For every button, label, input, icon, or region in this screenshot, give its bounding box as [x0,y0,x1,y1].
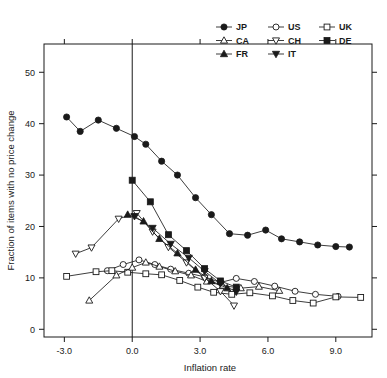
data-point-US-12 [312,291,318,297]
legend-marker-FR [220,50,227,57]
x-tick-label-3.0: 3.0 [194,346,207,356]
legend-item-FR[interactable]: FR [216,49,248,59]
legend-item-US[interactable]: US [268,22,301,32]
y-tick-label-40: 40 [25,119,35,129]
y-tick-label-10: 10 [25,273,35,283]
legend-label-UK: UK [339,22,352,32]
plot-frame [44,44,372,337]
y-tick-label-20: 20 [25,222,35,232]
inflation-price-change-chart: 01020304050-3.00.03.06.09.0Inflation rat… [0,0,387,378]
legend-label-US: US [288,22,301,32]
data-point-US-10 [272,283,278,289]
data-point-JP-8 [192,195,198,201]
data-point-JP-3 [113,125,119,131]
legend-label-CA: CA [236,36,249,46]
x-tick-label-9.0: 9.0 [330,346,343,356]
data-point-US-9 [251,278,257,284]
data-point-US-2 [136,257,142,263]
x-tick-label-0.0: 0.0 [126,346,139,356]
data-point-JP-17 [346,244,352,250]
legend-marker-US [273,24,279,30]
y-tick-label-30: 30 [25,170,35,180]
data-point-UK-5 [159,272,165,278]
legend-label-DE: DE [339,36,352,46]
data-point-JP-12 [263,227,269,233]
data-point-US-8 [233,275,239,281]
data-point-JP-11 [244,232,250,238]
data-point-UK-2 [109,268,115,274]
data-point-JP-16 [333,243,339,249]
legend-marker-UK [324,24,330,30]
legend-label-JP: JP [236,22,247,32]
legend-marker-IT [272,51,279,58]
legend-marker-DE [324,38,330,44]
data-point-JP-13 [278,236,284,242]
data-point-JP-5 [143,141,149,147]
legend-marker-JP [221,24,227,30]
data-point-CH-0 [72,251,79,257]
legend-label-FR: FR [236,49,248,59]
data-point-UK-9 [229,291,235,297]
legend-item-JP[interactable]: JP [216,22,247,32]
series-line-JP [67,117,350,247]
x-tick-label-6.0: 6.0 [262,346,275,356]
data-point-CA-3 [142,259,149,265]
legend-item-IT[interactable]: IT [268,49,297,59]
x-axis-label: Inflation rate [184,362,236,373]
legend-label-IT: IT [288,49,297,59]
x-tick-label--3.0: -3.0 [57,346,73,356]
data-point-JP-10 [226,231,232,237]
data-point-FR-0 [124,211,131,218]
data-point-DE-1 [147,199,153,205]
series-UK [64,268,364,306]
data-point-JP-14 [297,239,303,245]
data-point-UK-13 [310,300,316,306]
data-point-US-1 [120,262,126,268]
data-point-UK-0 [64,273,70,279]
data-point-US-11 [292,288,298,294]
data-point-CH-9 [231,303,238,309]
data-point-DE-3 [184,248,190,254]
data-point-JP-15 [315,242,321,248]
data-point-DE-0 [129,177,135,183]
legend-marker-CH [273,38,280,44]
legend: JPUSUKCACHDEFRIT [216,22,352,59]
data-point-JP-4 [131,133,137,139]
series-JP [64,114,353,250]
legend-marker-CA [221,37,228,43]
data-point-UK-12 [290,298,296,304]
data-point-UK-11 [270,293,276,299]
data-point-UK-6 [177,278,183,284]
data-point-JP-0 [64,114,70,120]
chart-container: 01020304050-3.00.03.06.09.0Inflation rat… [0,0,387,378]
data-point-JP-1 [77,128,83,134]
data-point-JP-2 [95,117,101,123]
data-point-DE-2 [165,232,171,238]
y-axis-label: Fraction of items with no price change [5,111,16,271]
data-point-JP-6 [159,158,165,164]
data-point-UK-8 [211,289,217,295]
data-point-UK-15 [358,295,364,301]
y-tick-label-50: 50 [25,68,35,78]
legend-item-UK[interactable]: UK [319,22,352,32]
legend-label-CH: CH [288,36,301,46]
data-point-UK-4 [143,271,149,277]
data-point-UK-7 [195,284,201,290]
y-tick-label-0: 0 [30,325,35,335]
data-point-UK-10 [247,290,253,296]
data-point-UK-1 [93,269,99,275]
data-point-JP-7 [174,172,180,178]
data-point-JP-9 [208,212,214,218]
data-point-UK-14 [333,294,339,300]
